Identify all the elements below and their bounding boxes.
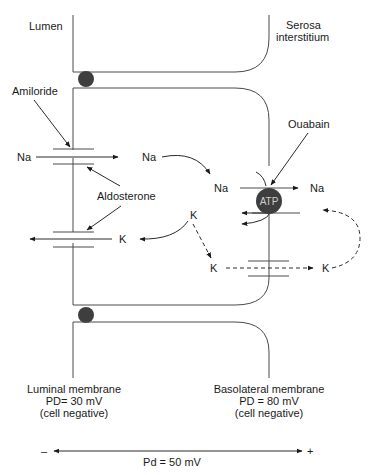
na-lumen-label: Na — [17, 151, 32, 163]
na-to-pump-arrow — [162, 155, 210, 174]
k-serosa-label: K — [322, 262, 330, 274]
upper-cell-outline — [73, 15, 269, 72]
na-cell2-label: Na — [214, 182, 229, 194]
ouabain-label: Ouabain — [288, 118, 330, 130]
aldosterone-arrow-na — [87, 167, 120, 186]
na-k-atpase-pump: ATP — [240, 172, 300, 224]
tight-junction-bottom — [78, 307, 94, 323]
atp-label: ATP — [260, 196, 279, 207]
k-cell-lower-label: K — [210, 262, 218, 274]
serosa-label-line2: interstitium — [276, 31, 329, 43]
pd-label: Pd = 50 mV — [143, 456, 201, 468]
na-serosa-label: Na — [310, 182, 325, 194]
aldosterone-label: Aldosterone — [97, 190, 156, 202]
k-cell-label: K — [190, 209, 198, 221]
k-cell-to-luminal-arrow — [140, 221, 188, 239]
amiloride-label: Amiloride — [12, 85, 58, 97]
basolateral-membrane-pd: PD = 80 mV — [239, 395, 299, 407]
epithelial-transport-diagram: Lumen Serosa interstitium Na Na Amilorid… — [0, 0, 372, 475]
aldosterone-arrow-k — [87, 206, 121, 230]
basolateral-membrane-name: Basolateral membrane — [214, 383, 325, 395]
luminal-membrane-note: (cell negative) — [40, 407, 108, 419]
amiloride-arrow — [34, 100, 70, 147]
k-cell-down-dashed-arrow — [193, 224, 211, 258]
potential-difference-axis: – + Pd = 50 mV — [41, 445, 313, 468]
lumen-label: Lumen — [29, 20, 63, 32]
ouabain-arrow — [271, 133, 308, 185]
k-recycle-dashed-arrow — [323, 210, 360, 268]
basolateral-membrane-note: (cell negative) — [235, 407, 303, 419]
tight-junction-top — [78, 71, 94, 87]
lower-cell-outline — [73, 322, 269, 378]
plus-sign: + — [307, 445, 313, 457]
k-luminal-label: K — [119, 233, 127, 245]
na-cell-label: Na — [142, 151, 157, 163]
serosa-label-line1: Serosa — [286, 19, 322, 31]
luminal-membrane-caption: Luminal membrane PD= 30 mV (cell negativ… — [27, 383, 121, 419]
minus-sign: – — [41, 445, 48, 457]
luminal-membrane-pd: PD= 30 mV — [46, 395, 103, 407]
basolateral-membrane-caption: Basolateral membrane PD = 80 mV (cell ne… — [214, 383, 325, 419]
luminal-membrane-name: Luminal membrane — [27, 383, 121, 395]
